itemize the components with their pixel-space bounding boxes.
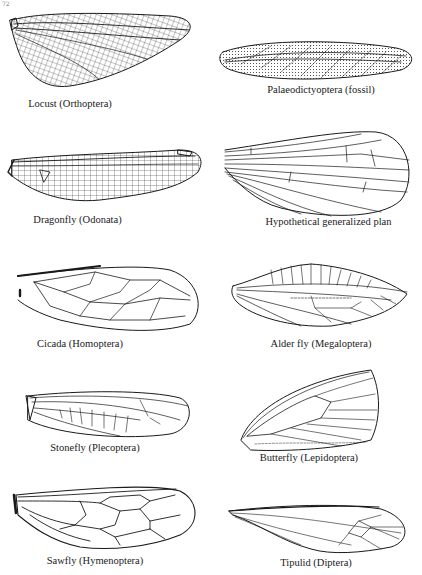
panel-stonefly: Stonefly (Plecoptera) bbox=[0, 360, 211, 470]
palaeodictyoptera-wing-diagram bbox=[211, 0, 422, 120]
panel-butterfly: Butterfly (Lepidoptera) bbox=[211, 360, 422, 470]
caption-stonefly: Stonefly (Plecoptera) bbox=[20, 442, 170, 453]
caption-sawfly: Sawfly (Hymenoptera) bbox=[20, 555, 170, 566]
panel-hypothetical: Hypothetical generalized plan bbox=[211, 120, 422, 240]
panel-palaeodictyoptera: Palaeodictyoptera (fossil) bbox=[211, 0, 422, 120]
panel-dragonfly: Dragonfly (Odonata) bbox=[0, 120, 211, 240]
caption-palaeodictyoptera: Palaeodictyoptera (fossil) bbox=[251, 84, 391, 95]
panel-alder-fly: Alder fly (Megaloptera) bbox=[211, 240, 422, 360]
panel-locust: Locust (Orthoptera) bbox=[0, 0, 211, 120]
stonefly-wing-diagram bbox=[0, 360, 211, 470]
caption-dragonfly: Dragonfly (Odonata) bbox=[0, 214, 155, 225]
caption-tipulid: Tipulid (Diptera) bbox=[251, 557, 381, 568]
caption-cicada: Cicada (Homoptera) bbox=[0, 338, 160, 349]
caption-hypothetical: Hypothetical generalized plan bbox=[241, 216, 416, 227]
caption-butterfly: Butterfly (Lepidoptera) bbox=[229, 452, 389, 463]
panel-tipulid: Tipulid (Diptera) bbox=[211, 465, 422, 575]
panel-cicada: Cicada (Homoptera) bbox=[0, 240, 211, 360]
panel-sawfly: Sawfly (Hymenoptera) bbox=[0, 465, 211, 575]
caption-alder-fly: Alder fly (Megaloptera) bbox=[241, 338, 401, 349]
caption-locust: Locust (Orthoptera) bbox=[0, 98, 140, 109]
